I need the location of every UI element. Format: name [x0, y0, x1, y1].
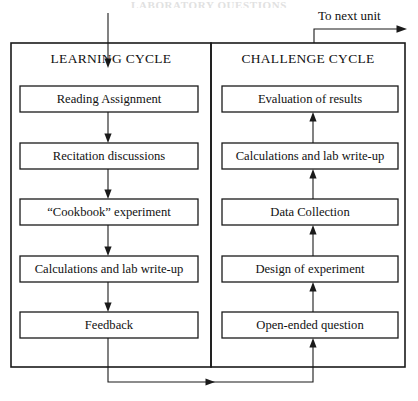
label-reading-assignment: Reading Assignment: [20, 86, 198, 112]
right-arrowhead-1: [309, 112, 316, 122]
feedback-loop-midpoint-arrowhead: [206, 378, 216, 385]
label-recitation-discussions: Recitation discussions: [20, 143, 198, 169]
left-arrowhead-3: [104, 247, 111, 257]
label-cookbook-experiment: “Cookbook” experiment: [20, 199, 198, 225]
challenge-cycle-title: CHALLENGE CYCLE: [211, 51, 405, 67]
left-arrowhead-4: [104, 303, 111, 313]
label-open-ended-question: Open-ended question: [222, 312, 398, 338]
label-design-of-experiment: Design of experiment: [222, 256, 398, 282]
learning-cycle-title: LEARNING CYCLE: [11, 51, 211, 67]
label-feedback: Feedback: [20, 312, 198, 338]
label-data-collection: Data Collection: [222, 199, 398, 225]
label-calculations-lab-writeup-left: Calculations and lab write-up: [20, 256, 198, 282]
right-arrowhead-2: [309, 169, 316, 179]
right-arrowhead-3: [309, 225, 316, 235]
right-arrowhead-4: [309, 282, 316, 292]
next-unit-arrowhead: [397, 25, 408, 32]
label-evaluation-of-results: Evaluation of results: [222, 86, 398, 112]
feedback-loop-arrowhead: [309, 338, 316, 348]
left-arrowhead-2: [104, 190, 111, 200]
left-arrowhead-1: [104, 134, 111, 144]
figure-canvas: LABORATORY QUESTIONS: [0, 0, 418, 401]
next-unit-connector: [314, 29, 399, 43]
next-unit-label: To next unit: [318, 8, 381, 24]
label-calculations-lab-writeup-right: Calculations and lab write-up: [222, 143, 398, 169]
